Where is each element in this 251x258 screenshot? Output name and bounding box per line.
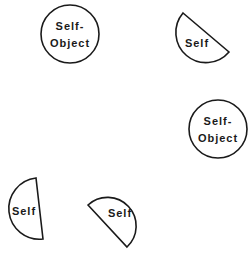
- circle-shape: [41, 5, 99, 63]
- node-label-line1: Self-: [204, 115, 233, 127]
- node-label-line2: Object: [198, 132, 238, 144]
- self-node-3: Self: [88, 197, 136, 247]
- circle-shape: [189, 100, 247, 158]
- half-circle-shape: [88, 197, 136, 247]
- node-label-line2: Object: [50, 37, 90, 49]
- diagram-canvas: Self- Object Self Self- Object Self Self: [0, 0, 251, 258]
- self-object-node-1: Self- Object: [41, 5, 99, 63]
- self-node-2: Self: [9, 178, 43, 239]
- node-label: Self: [185, 37, 209, 49]
- self-node-1: Self: [176, 13, 229, 63]
- node-label: Self: [108, 207, 132, 219]
- self-object-node-2: Self- Object: [189, 100, 247, 158]
- node-label: Self: [12, 205, 36, 217]
- node-label-line1: Self-: [56, 20, 85, 32]
